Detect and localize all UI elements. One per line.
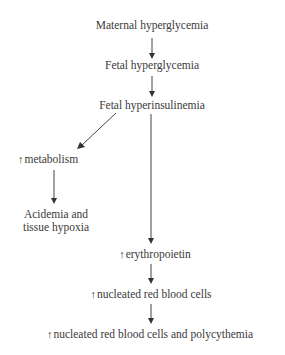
arrow-hyperinsulinemia-to-erythropoietin [148,114,154,244]
increase-arrow-icon: ↑ [18,153,24,165]
arrow-fetal-hyperglycemia-to-hyperinsulinemia [149,76,155,97]
increase-arrow-icon: ↑ [119,248,125,260]
arrow-maternal-to-fetal-hyperglycemia [149,38,155,59]
arrow-metabolism-to-acidemia [51,170,57,204]
node-fetal-hyperinsulinemia: Fetal hyperinsulinemia [99,99,205,112]
node-fetal-hyperglycemia: Fetal hyperglycemia [105,59,199,72]
diagram-arrows [0,0,285,355]
increase-arrow-icon: ↑ [90,288,96,300]
increase-arrow-icon: ↑ [47,328,53,340]
node-increased-metabolism: ↑metabolism [18,153,78,166]
node-increased-nrbc: ↑nucleated red blood cells [90,288,211,301]
node-increased-nrbc-polycythemia: ↑nucleated red blood cells and polycythe… [47,328,253,341]
arrow-erythropoietin-to-nrbc [148,264,154,284]
node-increased-erythropoietin: ↑erythropoietin [119,248,191,261]
node-acidemia-tissue-hypoxia: Acidemia and tissue hypoxia [23,208,89,234]
arrow-hyperinsulinemia-to-metabolism [77,113,116,149]
node-maternal-hyperglycemia: Maternal hyperglycemia [96,19,209,32]
arrow-nrbc-to-polycythemia [148,304,154,324]
